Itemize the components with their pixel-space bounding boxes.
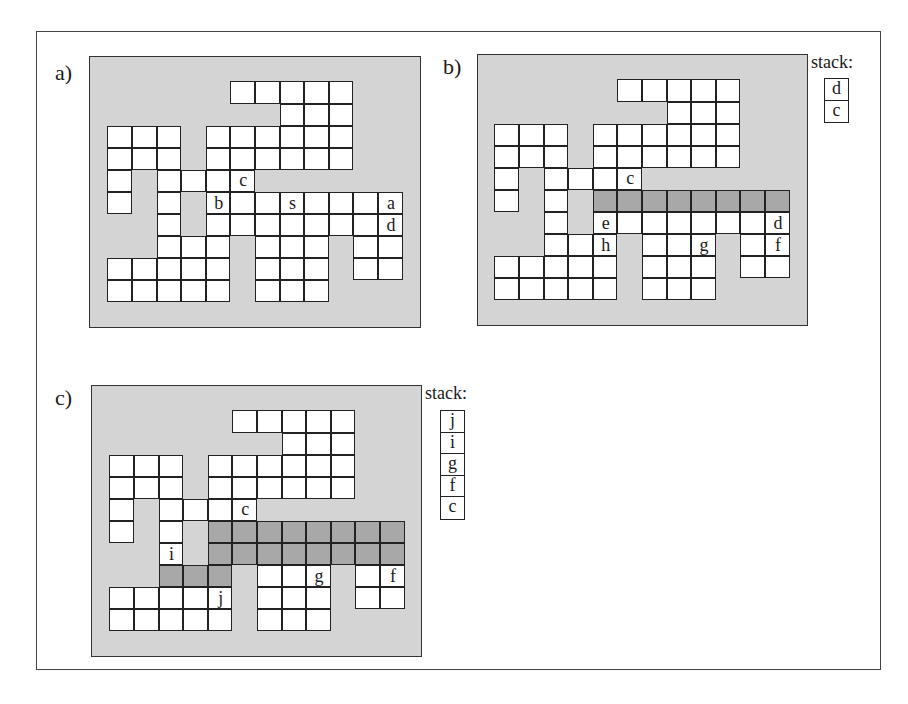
empty-cell [306, 410, 331, 432]
empty-cell [494, 256, 519, 278]
empty-cell [132, 258, 157, 280]
empty-cell [157, 170, 182, 192]
stack-item: j [441, 411, 464, 433]
empty-cell [230, 81, 255, 103]
empty-cell [282, 565, 307, 587]
empty-cell [544, 190, 569, 212]
empty-cell [280, 214, 305, 236]
empty-cell [691, 212, 716, 234]
empty-cell [280, 236, 305, 258]
stack-title: stack: [811, 53, 853, 71]
empty-cell [667, 124, 692, 146]
empty-cell [544, 234, 569, 256]
empty-cell [208, 499, 233, 521]
empty-cell [667, 278, 692, 300]
empty-cell [280, 148, 305, 170]
empty-cell [257, 609, 282, 631]
filled-cell [282, 521, 307, 543]
empty-cell [568, 278, 593, 300]
empty-cell [280, 81, 305, 103]
cell-label-j: j [208, 588, 233, 610]
empty-cell [109, 477, 134, 499]
stack-item: c [441, 497, 464, 519]
empty-cell [282, 609, 307, 631]
empty-cell [355, 565, 380, 587]
empty-cell [667, 234, 692, 256]
cell-label-g: g [307, 566, 332, 588]
empty-cell [617, 146, 642, 168]
empty-cell [331, 455, 356, 477]
empty-cell [740, 234, 765, 256]
empty-cell [107, 148, 132, 170]
empty-cell [181, 280, 206, 302]
stack-box: jigfc [440, 410, 465, 520]
empty-cell [157, 192, 182, 214]
empty-cell [329, 192, 354, 214]
empty-cell [593, 168, 618, 190]
empty-cell [282, 433, 307, 455]
empty-cell [642, 212, 667, 234]
empty-cell [183, 609, 208, 631]
empty-cell [642, 278, 667, 300]
empty-cell [255, 192, 280, 214]
empty-cell [331, 477, 356, 499]
empty-cell [109, 587, 134, 609]
panel-label: a) [55, 62, 72, 84]
empty-cell [353, 192, 378, 214]
empty-cell [282, 477, 307, 499]
empty-cell [617, 79, 642, 101]
empty-cell [691, 102, 716, 124]
empty-cell [519, 278, 544, 300]
empty-cell [642, 79, 667, 101]
filled-cell [257, 543, 282, 565]
empty-cell [206, 148, 231, 170]
empty-cell [331, 410, 356, 432]
empty-cell [255, 148, 280, 170]
empty-cell [157, 258, 182, 280]
empty-cell [304, 126, 329, 148]
filled-cell [380, 543, 405, 565]
empty-cell [230, 214, 255, 236]
cell-label-d: d [766, 213, 791, 235]
empty-cell [617, 124, 642, 146]
empty-cell [109, 455, 134, 477]
filled-cell [355, 543, 380, 565]
empty-cell [667, 212, 692, 234]
empty-cell [230, 148, 255, 170]
filled-cell [593, 190, 618, 212]
empty-cell [544, 168, 569, 190]
empty-cell [280, 280, 305, 302]
empty-cell [159, 499, 184, 521]
empty-cell [208, 455, 233, 477]
stack-item: g [441, 454, 464, 476]
empty-cell [134, 455, 159, 477]
empty-cell [255, 214, 280, 236]
empty-cell [206, 280, 231, 302]
empty-cell [642, 234, 667, 256]
empty-cell [544, 212, 569, 234]
filled-cell [159, 565, 184, 587]
empty-cell [667, 79, 692, 101]
empty-cell [353, 236, 378, 258]
filled-cell [691, 190, 716, 212]
empty-cell [329, 81, 354, 103]
empty-cell [230, 126, 255, 148]
empty-cell [107, 170, 132, 192]
empty-cell [667, 146, 692, 168]
cell-label-c: c [233, 499, 258, 521]
empty-cell [306, 455, 331, 477]
empty-cell [134, 587, 159, 609]
empty-cell [206, 126, 231, 148]
empty-cell [716, 212, 741, 234]
empty-cell [157, 126, 182, 148]
empty-cell [232, 477, 257, 499]
empty-cell [206, 170, 231, 192]
empty-cell [304, 104, 329, 126]
cell-label-f: f [381, 566, 406, 588]
empty-cell [159, 609, 184, 631]
empty-cell [255, 258, 280, 280]
empty-cell [494, 124, 519, 146]
empty-cell [593, 146, 618, 168]
empty-cell [691, 124, 716, 146]
empty-cell [353, 214, 378, 236]
